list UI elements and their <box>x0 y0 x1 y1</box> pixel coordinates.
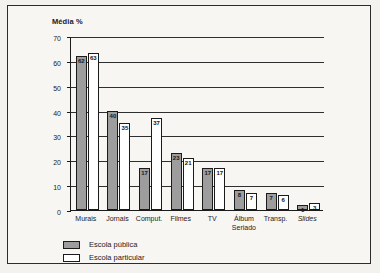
bar-escola-publica: 7 <box>266 193 277 210</box>
bar-value-label: 3 <box>310 205 319 212</box>
bar-escola-publica: 23 <box>171 153 182 210</box>
bar-value-label: 17 <box>215 170 224 177</box>
y-axis-tick-label: 70 <box>53 35 61 42</box>
bar-value-label: 23 <box>172 155 181 162</box>
y-axis-tick: 0 <box>67 211 71 212</box>
bar-escola-particular: 6 <box>278 195 289 210</box>
bar-group: 1737 <box>139 37 163 210</box>
bar-group: 4035 <box>107 37 131 210</box>
bar-escola-particular: 37 <box>151 118 162 210</box>
y-axis-tick-label: 30 <box>53 134 61 141</box>
y-axis-tick: 30 <box>67 136 71 137</box>
bar-value-label: 17 <box>203 170 212 177</box>
y-axis-tick: 70 <box>67 37 71 38</box>
y-axis-tick: 50 <box>67 87 71 88</box>
bar-escola-particular: 3 <box>309 203 320 210</box>
legend-label: Escola pública <box>89 240 137 249</box>
legend-label: Escola particular <box>89 253 144 262</box>
bar-escola-particular: 21 <box>183 158 194 210</box>
bar-value-label: 62 <box>77 58 86 65</box>
bar-escola-publica: 40 <box>107 111 118 210</box>
plot-area: 010203040506070 626340351737232117178776… <box>70 37 323 211</box>
bar-value-label: 7 <box>267 195 276 202</box>
bar-escola-particular: 17 <box>214 168 225 210</box>
bar-value-label: 40 <box>108 113 117 120</box>
bar-value-label: 21 <box>184 160 193 167</box>
bar-escola-publica: 17 <box>202 168 213 210</box>
y-axis-tick: 20 <box>67 161 71 162</box>
bar-value-label: 8 <box>235 192 244 199</box>
bar-escola-particular: 63 <box>88 53 99 210</box>
bar-value-label: 1 <box>298 207 307 214</box>
y-axis-tick: 10 <box>67 186 71 187</box>
bar-group: 1717 <box>202 37 226 210</box>
bar-value-label: 63 <box>89 55 98 62</box>
legend-item: Escola particular <box>63 251 144 264</box>
bar-value-label: 35 <box>120 125 129 132</box>
y-axis-tick-label: 20 <box>53 159 61 166</box>
y-axis-tick: 60 <box>67 62 71 63</box>
bar-group: 2321 <box>171 37 195 210</box>
bar-group: 76 <box>266 37 290 210</box>
bar-value-label: 7 <box>247 195 256 202</box>
bar-escola-publica: 1 <box>297 205 308 210</box>
bar-group: 6263 <box>76 37 100 210</box>
bar-value-label: 37 <box>152 120 161 127</box>
bar-escola-publica: 8 <box>234 190 245 210</box>
bar-escola-particular: 7 <box>246 193 257 210</box>
y-axis-tick-label: 10 <box>53 184 61 191</box>
y-axis-tick: 40 <box>67 112 71 113</box>
y-axis-tick-label: 50 <box>53 84 61 91</box>
y-axis-title: Média % <box>52 17 83 26</box>
legend-item: Escola pública <box>63 238 144 251</box>
bar-group: 87 <box>234 37 258 210</box>
bar-escola-publica: 17 <box>139 168 150 210</box>
legend-swatch-private <box>63 254 80 262</box>
y-axis-tick-label: 60 <box>53 59 61 66</box>
bar-value-label: 17 <box>140 170 149 177</box>
bar-escola-particular: 35 <box>119 123 130 210</box>
bar-group: 13 <box>297 37 321 210</box>
legend-swatch-public <box>63 241 80 249</box>
chart-legend: Escola públicaEscola particular <box>63 238 144 264</box>
y-axis-tick-label: 0 <box>57 209 61 216</box>
bar-value-label: 6 <box>279 197 288 204</box>
chart-figure: Média % 010203040506070 6263403517372321… <box>0 0 380 273</box>
chart-frame: Média % 010203040506070 6263403517372321… <box>7 5 371 264</box>
y-axis-tick-label: 40 <box>53 109 61 116</box>
x-axis-label: Slides <box>287 215 327 224</box>
bar-escola-publica: 62 <box>76 56 87 210</box>
